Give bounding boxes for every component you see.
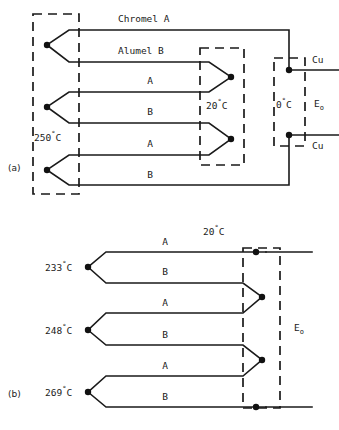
junction-node-250c-2: [44, 104, 50, 110]
thermocouple-diagram: Chromel A Alumel B A B A B 250°C 20°C 0°…: [0, 0, 339, 430]
circuit-svg: Chromel A Alumel B A B A B 250°C 20°C 0°…: [0, 0, 339, 430]
label-wire-chromel-a: Chromel A: [118, 13, 170, 24]
label-output-eo-a: Eo: [314, 98, 324, 112]
label-wire-b-a-3: A: [162, 297, 168, 308]
panel-label-a: (a): [8, 163, 21, 173]
label-temp-0c: 0°C: [276, 97, 292, 110]
label-wire-b-6: B: [147, 169, 153, 180]
temp-269-unit: C: [66, 387, 72, 398]
label-temp-233c: 233°C: [45, 260, 72, 273]
label-wire-a-3: A: [147, 75, 153, 86]
junction-node-250c-1: [44, 42, 50, 48]
wire-a-1-chromel: [47, 30, 289, 70]
hot-zone-250c-box: [33, 14, 79, 194]
wire-b-1-a: [88, 252, 266, 267]
label-wire-b-b-4: B: [162, 329, 168, 340]
junction-node-20c-b-3: [259, 357, 265, 363]
temp-248-unit: C: [66, 325, 72, 336]
junction-node-0c-1: [286, 67, 292, 73]
label-output-eo-b: Eo: [294, 322, 304, 336]
junction-node-20c-a-2: [228, 136, 234, 142]
temp-269-value: 269: [45, 387, 62, 398]
label-temp-20c-a: 20°C: [206, 98, 227, 111]
junction-node-248c: [85, 327, 91, 333]
label-cu-bottom: Cu: [312, 140, 323, 151]
label-wire-b-a-1: A: [162, 236, 168, 247]
label-cu-top: Cu: [312, 54, 323, 65]
wire-b-2-b: [88, 267, 262, 297]
wire-b-3-a: [88, 297, 262, 330]
junction-node-269c: [85, 389, 91, 395]
temp-250-unit: C: [55, 132, 61, 143]
temp-20a-value: 20: [206, 100, 218, 111]
temp-233-value: 233: [45, 262, 62, 273]
wire-a-6-alumel: [47, 135, 289, 185]
temp-20a-unit: C: [222, 100, 228, 111]
label-temp-20c-b: 20°C: [203, 224, 224, 237]
wire-a-3-chromel: [47, 77, 231, 107]
temp-250-value: 250: [34, 132, 51, 143]
label-temp-248c: 248°C: [45, 323, 72, 336]
junction-node-20c-b-1: [253, 249, 259, 255]
junction-node-233c: [85, 264, 91, 270]
label-wire-b-b-2: B: [162, 266, 168, 277]
reference-zone-20c-box-b: [243, 248, 280, 408]
wire-b-5-a: [88, 360, 262, 392]
label-wire-b-a-5: A: [162, 360, 168, 371]
temp-20b-unit: C: [219, 226, 225, 237]
wire-b-4-b: [88, 330, 262, 360]
label-wire-a-5: A: [147, 138, 153, 149]
eo-b-subscript: o: [300, 328, 304, 336]
junction-node-20c-b-4: [253, 404, 259, 410]
label-temp-269c: 269°C: [45, 385, 72, 398]
panel-label-b: (b): [8, 389, 21, 399]
label-wire-b-4: B: [147, 106, 153, 117]
temp-0-unit: C: [286, 99, 292, 110]
label-wire-alumel-b: Alumel B: [118, 45, 164, 56]
junction-node-20c-b-2: [259, 294, 265, 300]
temp-233-unit: C: [66, 262, 72, 273]
junction-node-250c-3: [44, 167, 50, 173]
label-wire-b-b-6: B: [162, 391, 168, 402]
temp-20b-value: 20: [203, 226, 215, 237]
junction-node-20c-a-1: [228, 74, 234, 80]
wire-b-6-b: [88, 392, 266, 407]
label-temp-250c: 250°C: [34, 130, 61, 143]
temp-248-value: 248: [45, 325, 62, 336]
wire-a-4-alumel: [47, 107, 231, 139]
eo-a-subscript: o: [320, 104, 324, 112]
junction-node-0c-2: [286, 132, 292, 138]
